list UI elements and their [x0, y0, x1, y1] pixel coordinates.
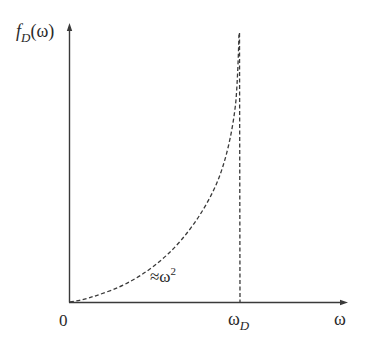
x-axis-arrow-icon: [340, 300, 348, 305]
curve-annotation: ≈ω2: [150, 268, 176, 285]
dos-curve: [70, 33, 239, 302]
cutoff-symbol: ω: [228, 309, 240, 329]
y-axis-label-subscript: D: [21, 30, 30, 45]
curve-annotation-text: ≈ω: [150, 267, 171, 286]
y-axis-arrow-icon: [67, 23, 72, 31]
cutoff-frequency-label: ωD: [228, 310, 249, 328]
y-axis-label-arg: (ω): [30, 21, 54, 41]
y-axis-label: fD(ω): [16, 22, 54, 40]
curve-annotation-superscript: 2: [171, 265, 177, 277]
x-axis-label: ω: [334, 310, 346, 328]
cutoff-line: [240, 33, 241, 302]
cutoff-subscript: D: [240, 318, 249, 333]
diagram-canvas: [0, 0, 370, 344]
origin-label: 0: [59, 312, 68, 329]
density-of-states-diagram: fD(ω) 0 ωD ω ≈ω2: [0, 0, 370, 344]
